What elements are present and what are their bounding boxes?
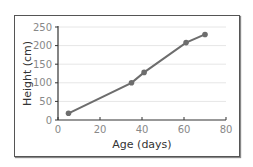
x-tick-label: 0 <box>55 124 61 135</box>
data-point <box>66 111 72 117</box>
line-chart: 050100150200250020406080Age (days)Height… <box>0 0 253 167</box>
y-tick-label: 250 <box>33 22 52 33</box>
x-axis-label: Age (days) <box>112 138 171 151</box>
y-tick-label: 0 <box>46 115 52 126</box>
y-axis-label: Height (cm) <box>21 41 34 106</box>
data-point <box>129 80 135 86</box>
data-point <box>183 40 189 46</box>
x-tick-label: 80 <box>220 124 233 135</box>
x-tick-label: 20 <box>94 124 107 135</box>
data-point <box>141 70 147 76</box>
y-tick-label: 50 <box>39 96 52 107</box>
x-tick-label: 60 <box>178 124 191 135</box>
y-tick-label: 100 <box>33 77 52 88</box>
x-tick-label: 40 <box>136 124 149 135</box>
y-tick-label: 200 <box>33 40 52 51</box>
y-tick-label: 150 <box>33 59 52 70</box>
data-point <box>202 32 208 38</box>
